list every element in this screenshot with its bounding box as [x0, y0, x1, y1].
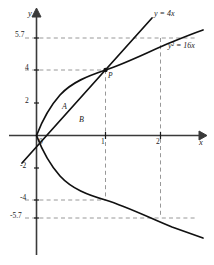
- equation-label-line: y = 4x: [154, 10, 175, 18]
- y-tick-label-2: 2: [25, 97, 29, 105]
- graph-figure: y x 5.7 4 2 -2 -4 -5.7 0 1 2 y = 4x y² =…: [0, 0, 214, 265]
- x-tick-label-0: 0: [39, 138, 43, 146]
- y-axis-label: y: [28, 9, 32, 18]
- y-tick-label-minus-2: -2: [20, 162, 26, 170]
- y-tick-label-4: 4: [25, 64, 29, 72]
- region-b-label: B: [79, 116, 84, 124]
- point-p-label: P: [108, 72, 113, 80]
- y-tick-label-5-7: 5.7: [15, 31, 24, 39]
- y-axis-arrow: [32, 8, 41, 17]
- y-tick-label-minus-4: -4: [20, 194, 26, 202]
- x-axis-label: x: [199, 138, 203, 147]
- x-tick-label-2: 2: [156, 138, 160, 146]
- equation-label-parabola: y² = 16x: [168, 42, 195, 50]
- region-a-label: A: [62, 103, 67, 111]
- graph-canvas: [0, 0, 214, 265]
- parabola-lower-branch: [37, 136, 204, 239]
- x-tick-label-1: 1: [101, 138, 105, 146]
- y-tick-label-minus-5-7: -5.7: [10, 212, 22, 220]
